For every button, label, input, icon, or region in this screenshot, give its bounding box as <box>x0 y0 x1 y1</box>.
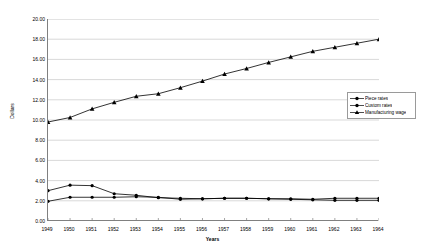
data-point-marker <box>179 198 182 201</box>
data-point-marker <box>113 192 116 195</box>
data-point-marker <box>68 184 71 187</box>
legend-item-label: Custom rates <box>365 102 392 109</box>
data-point-marker <box>68 196 71 199</box>
x-axis-tick-labels: 1949195019511952195319541955195619571958… <box>47 226 378 234</box>
y-axis-title: Dollars <box>9 91 15 131</box>
series-line <box>48 39 379 122</box>
data-point-marker <box>355 197 358 200</box>
data-point-marker <box>245 197 248 200</box>
data-point-marker <box>91 184 94 187</box>
data-point-marker <box>289 197 292 200</box>
data-point-marker <box>48 189 50 192</box>
data-point-marker <box>223 197 226 200</box>
data-point-marker <box>333 197 336 200</box>
plot-area <box>47 19 378 221</box>
data-point-marker <box>48 200 50 203</box>
series-2 <box>48 37 379 124</box>
x-axis-title: Years <box>47 236 378 242</box>
y-axis-tick-label: 14.00 <box>3 77 45 83</box>
data-point-marker <box>377 197 379 200</box>
data-point-marker <box>91 196 94 199</box>
data-point-marker <box>157 196 160 199</box>
data-point-marker <box>267 197 270 200</box>
line-chart: 0.002.004.006.008.0010.0012.0014.0016.00… <box>0 0 423 251</box>
data-point-marker <box>135 195 138 198</box>
circle-marker-icon <box>349 95 365 102</box>
data-point-marker <box>311 198 314 201</box>
legend-item-label: Manufacturing wage <box>365 109 406 116</box>
y-axis-tick-label: 18.00 <box>3 36 45 42</box>
series-1 <box>48 195 379 203</box>
legend-item[interactable]: Custom rates <box>349 102 413 109</box>
y-axis-tick-label: 6.00 <box>3 157 45 163</box>
data-point-marker <box>201 197 204 200</box>
legend-item[interactable]: Piece rates <box>349 95 413 102</box>
chart-legend: Piece ratesCustom ratesManufacturing wag… <box>347 92 416 119</box>
y-axis-tick-label: 16.00 <box>3 56 45 62</box>
series-0 <box>48 184 379 202</box>
data-point-marker <box>113 196 116 199</box>
y-axis-tick-label: 20.00 <box>3 16 45 22</box>
y-axis-tick-label: 4.00 <box>3 178 45 184</box>
y-axis-tick-label: 2.00 <box>3 198 45 204</box>
data-point-marker <box>68 115 73 119</box>
triangle-marker-icon <box>349 109 365 116</box>
x-axis-tick-label: 1964 <box>365 226 391 232</box>
legend-item-label: Piece rates <box>365 95 388 102</box>
series-line <box>48 185 379 200</box>
y-axis-tick-labels: 0.002.004.006.008.0010.0012.0014.0016.00… <box>0 19 45 221</box>
y-axis-tick-label: 0.00 <box>3 218 45 224</box>
circle-marker-icon <box>349 102 365 109</box>
plot-svg <box>48 19 379 221</box>
legend-item[interactable]: Manufacturing wage <box>349 109 413 116</box>
y-axis-tick-label: 8.00 <box>3 137 45 143</box>
